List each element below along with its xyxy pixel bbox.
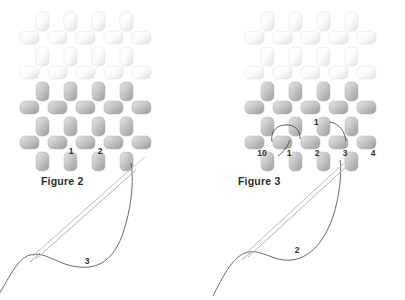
needle-tip-icon <box>343 152 356 164</box>
figure-3-caption: Figure 3 <box>238 175 280 187</box>
thread-and-needle-layer <box>0 0 405 300</box>
diagram-canvas: Figure 2 Figure 3 12311012342 <box>0 0 405 300</box>
needle-tip-icon <box>133 157 145 167</box>
figure-2-caption: Figure 2 <box>41 175 83 187</box>
thread-hook-icon <box>278 140 290 156</box>
thread-loop-left-icon <box>272 125 300 142</box>
thread-loop-right-icon <box>330 122 346 141</box>
figure-3-thread-group <box>213 122 356 296</box>
